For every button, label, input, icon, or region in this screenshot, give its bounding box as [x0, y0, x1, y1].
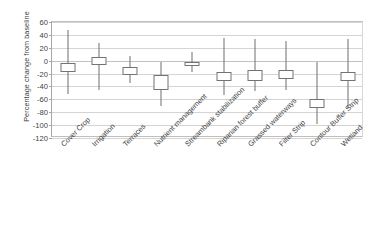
box-plot[interactable] — [52, 22, 83, 136]
box-plot-box — [341, 72, 356, 82]
box-plot-box — [91, 57, 106, 64]
box-plot-whisker — [98, 43, 99, 90]
box-plot-box — [216, 72, 231, 81]
box-plot-whisker — [223, 38, 224, 95]
box-plot-box — [278, 70, 293, 79]
box-plot[interactable] — [146, 22, 177, 136]
box-plot-whisker — [285, 41, 286, 90]
y-tick-label: -60 — [37, 95, 48, 104]
box-plot-box — [185, 62, 200, 66]
box-plot-box — [247, 70, 262, 80]
box-plot-whisker — [317, 62, 318, 125]
box-plot-box — [154, 75, 169, 89]
box-plot[interactable] — [302, 22, 333, 136]
y-tick-label: 20 — [40, 43, 48, 52]
figure-container: Percentage change from baseline 6040200-… — [0, 0, 371, 234]
box-plot-whisker — [67, 30, 68, 94]
y-tick-label: -40 — [37, 82, 48, 91]
y-tick-label: 0 — [44, 56, 48, 65]
y-tick-label: -120 — [33, 134, 48, 143]
box-plot-box — [60, 63, 75, 71]
box-plot-box — [310, 99, 325, 108]
y-axis-title: Percentage change from baseline — [22, 0, 31, 137]
y-tick-label: 40 — [40, 30, 48, 39]
box-plot-whisker — [254, 39, 255, 91]
y-tick-mark — [49, 138, 52, 139]
y-tick-label: -100 — [33, 121, 48, 130]
box-plot-box — [122, 67, 137, 75]
y-tick-label: -20 — [37, 69, 48, 78]
box-plot[interactable] — [114, 22, 145, 136]
y-tick-label: 60 — [40, 18, 48, 27]
y-tick-label: -80 — [37, 108, 48, 117]
